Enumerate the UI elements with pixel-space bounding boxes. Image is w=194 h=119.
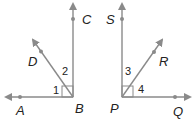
point-R xyxy=(152,50,156,54)
label-B: B xyxy=(75,101,84,116)
angle-1-label: 1 xyxy=(53,84,59,96)
left-figure: A B C D 1 2 xyxy=(6,4,92,118)
angle-3-label: 3 xyxy=(125,65,131,77)
label-C: C xyxy=(82,12,92,27)
label-R: R xyxy=(159,54,168,69)
angle-2-label: 2 xyxy=(62,65,68,77)
angle-4-label: 4 xyxy=(138,83,144,95)
point-S xyxy=(120,17,124,21)
label-Q: Q xyxy=(173,104,183,119)
label-P: P xyxy=(110,101,119,116)
diagram: A B C D 1 2 S P R Q 3 4 xyxy=(0,0,194,119)
point-Q xyxy=(173,95,177,99)
label-D: D xyxy=(28,54,37,69)
label-A: A xyxy=(15,103,25,118)
right-figure: S P R Q 3 4 xyxy=(106,4,190,119)
angle-diagram-svg: A B C D 1 2 S P R Q 3 4 xyxy=(0,0,194,119)
point-C xyxy=(71,17,75,21)
point-D xyxy=(39,50,43,54)
label-S: S xyxy=(106,12,115,27)
point-A xyxy=(18,95,22,99)
